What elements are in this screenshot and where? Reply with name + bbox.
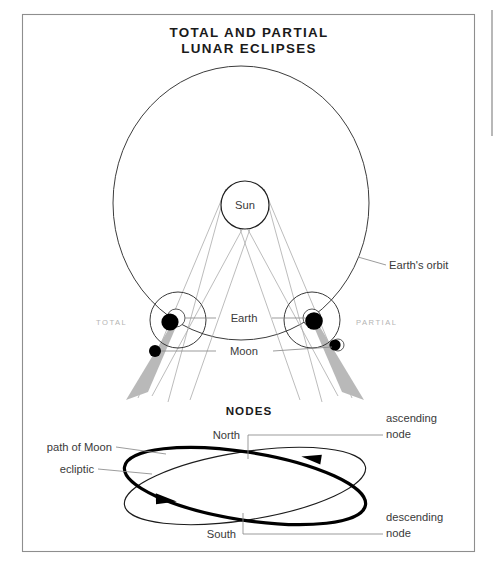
ecliptic-label: ecliptic [60,463,95,475]
figure-canvas: TOTAL AND PARTIAL LUNAR ECLIPSES Sun [0,0,498,563]
nodes-heading: NODES [226,404,273,417]
figure-title-line-1: TOTAL AND PARTIAL [169,25,328,40]
moon-path-label: path of Moon [47,441,112,453]
figure-title-line-2: LUNAR ECLIPSES [181,41,317,56]
total-eclipse-label: TOTAL [96,318,127,327]
earth-label: Earth [231,312,258,324]
moon-disc-total [149,345,161,357]
earth-shadow-side-total [161,313,178,330]
lunar-eclipse-figure: TOTAL AND PARTIAL LUNAR ECLIPSES Sun [0,0,498,563]
moon-label: Moon [230,345,258,357]
earths-orbit-label: Earth's orbit [389,259,449,271]
south-node-label: South [207,528,236,540]
ascending-node-label-line-1: ascending [386,412,437,424]
partial-eclipse-label: PARTIAL [356,318,397,327]
descending-node-label-line-1: descending [386,511,443,523]
descending-node-label-line-2: node [386,527,411,539]
ascending-node-label-line-2: node [386,428,411,440]
north-node-label: North [213,429,240,441]
sun-label: Sun [235,199,255,211]
earth-disc-partial [305,312,323,330]
moon-shadow-part-partial [329,339,340,350]
